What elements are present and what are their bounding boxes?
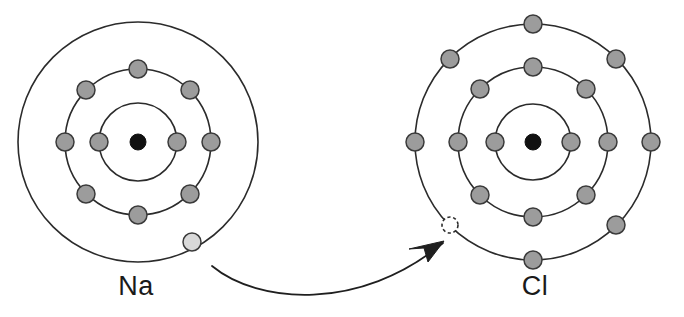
sodium-label: Na [118,271,154,301]
sodium-electron [129,206,147,224]
transfer-arrow-curve [212,243,443,295]
chlorine-electron [524,15,542,33]
sodium-electron [77,81,95,99]
chlorine-electron [562,133,580,151]
sodium-electron [202,133,220,151]
chlorine-nucleus [525,134,541,150]
chlorine-electron [524,58,542,76]
sodium-electron [168,133,186,151]
chlorine-electron [486,133,504,151]
chlorine-electron [449,133,467,151]
sodium-valence-electron [183,233,201,251]
chlorine-electron [471,80,489,98]
sodium-electrons [56,60,220,251]
chlorine-electron [441,50,459,68]
chlorine-electron [471,186,489,204]
transfer-arrow-head [409,241,444,262]
electron-transfer-arrow [212,241,444,295]
chlorine-electron-vacancy [442,217,458,233]
ionic-bond-diagram: Na Cl [0,0,684,317]
chlorine-electron [406,133,424,151]
chlorine-electron [524,251,542,269]
chlorine-label: Cl [522,271,548,301]
chlorine-electron [524,208,542,226]
sodium-electron [129,60,147,78]
chlorine-electron [577,186,595,204]
sodium-electron [77,185,95,203]
chlorine-electron [577,80,595,98]
atom-chlorine: Cl [406,15,660,301]
sodium-electron [181,81,199,99]
atom-diagram-canvas: Na Cl [0,0,684,317]
sodium-electron [56,133,74,151]
chlorine-electron [642,133,660,151]
chlorine-electron [599,133,617,151]
sodium-electron [181,185,199,203]
chlorine-electron [607,50,625,68]
sodium-nucleus [130,134,146,150]
chlorine-electron [607,216,625,234]
atom-sodium: Na [18,22,258,301]
sodium-electron [90,133,108,151]
